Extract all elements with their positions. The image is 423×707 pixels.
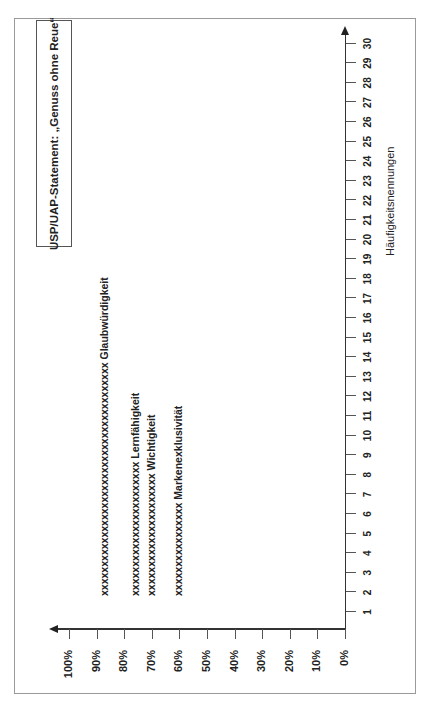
- frequency-tick: [346, 454, 356, 455]
- frequency-tick-label: 27: [362, 92, 373, 112]
- percent-tick: [235, 629, 236, 639]
- frequency-axis-arrow-icon: [341, 26, 349, 35]
- frequency-tick-label: 24: [362, 151, 373, 171]
- frequency-tick-label: 29: [362, 53, 373, 73]
- frequency-tick-label: 17: [362, 288, 373, 308]
- percent-tick-label: 10%: [310, 650, 322, 672]
- frequency-tick-label: 12: [362, 386, 373, 406]
- row-marks: xxxxxxxxxxxxxxxxxxxxx: [145, 473, 157, 596]
- row-marks: xxxxxxxxxxxxxxxxxxxxxxx: [129, 462, 141, 596]
- frequency-tick: [346, 356, 356, 357]
- percent-tick-label: 0%: [338, 650, 350, 666]
- frequency-tick-label: 23: [362, 171, 373, 191]
- row-label: Glaubwürdigkeit: [98, 277, 110, 359]
- frequency-tick-label: 1: [362, 602, 373, 622]
- percent-tick-label: 100%: [62, 650, 74, 678]
- percent-tick-label: 70%: [145, 650, 157, 672]
- percent-tick: [290, 629, 291, 639]
- percent-tick: [262, 629, 263, 639]
- frequency-tick-label: 4: [362, 543, 373, 563]
- frequency-tick-label: 2: [362, 582, 373, 602]
- frequency-tick: [346, 43, 356, 44]
- frequency-tick-label: 26: [362, 112, 373, 132]
- frequency-tick-label: 5: [362, 524, 373, 544]
- frequency-tick: [346, 376, 356, 377]
- frequency-tick: [346, 160, 356, 161]
- frequency-tick-label: 22: [362, 190, 373, 210]
- row-label: Wichtigkeit: [145, 415, 157, 471]
- frequency-tick-label: 19: [362, 249, 373, 269]
- frequency-tick: [346, 199, 356, 200]
- frequency-tick-label: 21: [362, 210, 373, 230]
- chart-frame: USP/UAP-Statement: „Genuss ohne Reue“ 0%…: [14, 18, 416, 694]
- frequency-tick-label: 9: [362, 445, 373, 465]
- frequency-tick: [346, 513, 356, 514]
- percent-tick: [345, 629, 346, 639]
- frequency-tick-label: 16: [362, 308, 373, 328]
- row-lernfaehigkeit: xxxxxxxxxxxxxxxxxxxxxxx Lernfähigkeit: [129, 393, 141, 596]
- frequency-tick-label: 14: [362, 347, 373, 367]
- frequency-tick: [346, 611, 356, 612]
- frequency-tick-label: 11: [362, 406, 373, 426]
- frequency-tick: [346, 82, 356, 83]
- row-marks: xxxxxxxxxxxxxxxx: [172, 503, 184, 596]
- frequency-tick: [346, 141, 356, 142]
- percent-tick: [124, 629, 125, 639]
- row-glaubwuerdigkeit: xxxxxxxxxxxxxxxxxxxxxxxxxxxxxxxxxxxxxxxx…: [98, 277, 110, 596]
- frequency-tick: [346, 337, 356, 338]
- row-marks: xxxxxxxxxxxxxxxxxxxxxxxxxxxxxxxxxxxxxxxx: [98, 362, 110, 596]
- percent-tick-label: 50%: [200, 650, 212, 672]
- row-label: Markenexklusivität: [172, 406, 184, 500]
- frequency-tick: [346, 395, 356, 396]
- percent-tick: [207, 629, 208, 639]
- frequency-tick-label: 20: [362, 230, 373, 250]
- frequency-tick-label: 25: [362, 132, 373, 152]
- percent-tick-label: 90%: [90, 650, 102, 672]
- frequency-tick: [346, 239, 356, 240]
- percent-tick: [69, 629, 70, 639]
- frequency-tick: [346, 258, 356, 259]
- frequency-tick-label: 10: [362, 426, 373, 446]
- frequency-tick: [346, 121, 356, 122]
- frequency-tick: [346, 415, 356, 416]
- frequency-tick-label: 18: [362, 269, 373, 289]
- frequency-tick: [346, 474, 356, 475]
- frequency-tick: [346, 101, 356, 102]
- frequency-tick-label: 7: [362, 484, 373, 504]
- frequency-tick-label: 6: [362, 504, 373, 524]
- frequency-tick-label: 8: [362, 465, 373, 485]
- row-label: Lernfähigkeit: [129, 393, 141, 459]
- frequency-tick-label: 3: [362, 563, 373, 583]
- frequency-axis-title: Häufigkeitsnennungen: [384, 147, 396, 256]
- percent-axis-arrow-icon: [49, 625, 58, 633]
- frequency-tick: [346, 435, 356, 436]
- frequency-tick: [346, 552, 356, 553]
- percent-tick: [179, 629, 180, 639]
- percent-tick-label: 60%: [172, 650, 184, 672]
- chart-title-text: USP/UAP-Statement: „Genuss ohne Reue“: [48, 17, 60, 250]
- percent-tick-label: 30%: [255, 650, 267, 672]
- row-wichtigkeit: xxxxxxxxxxxxxxxxxxxxx Wichtigkeit: [145, 415, 157, 596]
- percent-tick: [97, 629, 98, 639]
- frequency-tick: [346, 180, 356, 181]
- frequency-tick: [346, 297, 356, 298]
- frequency-axis-line: [345, 33, 347, 629]
- percent-tick: [317, 629, 318, 639]
- frequency-tick-label: 30: [362, 34, 373, 54]
- percent-tick: [152, 629, 153, 639]
- row-markenexklusivitaet: xxxxxxxxxxxxxxxx Markenexklusivität: [172, 406, 184, 596]
- frequency-tick: [346, 62, 356, 63]
- percent-axis-line: [57, 629, 345, 631]
- frequency-tick: [346, 219, 356, 220]
- frequency-tick: [346, 572, 356, 573]
- percent-tick-label: 40%: [228, 650, 240, 672]
- frequency-tick: [346, 533, 356, 534]
- frequency-tick: [346, 493, 356, 494]
- frequency-tick: [346, 591, 356, 592]
- chart-title: USP/UAP-Statement: „Genuss ohne Reue“: [36, 20, 72, 247]
- frequency-tick: [346, 278, 356, 279]
- frequency-tick-label: 13: [362, 367, 373, 387]
- frequency-tick-label: 28: [362, 73, 373, 93]
- percent-tick-label: 20%: [283, 650, 295, 672]
- frequency-tick: [346, 317, 356, 318]
